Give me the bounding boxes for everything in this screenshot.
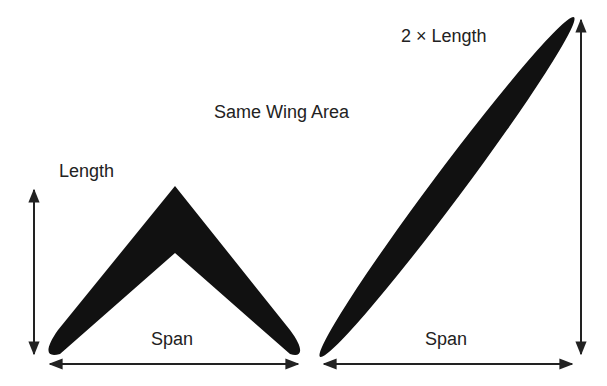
left-span-label: Span <box>151 330 193 348</box>
left-length-label: Length <box>59 162 114 180</box>
wing-diagram <box>0 0 607 386</box>
diagram-title: Same Wing Area <box>214 103 349 121</box>
right-span-label: Span <box>425 330 467 348</box>
straight-wing-shape <box>308 8 586 365</box>
right-length-label: 2 × Length <box>401 27 487 45</box>
